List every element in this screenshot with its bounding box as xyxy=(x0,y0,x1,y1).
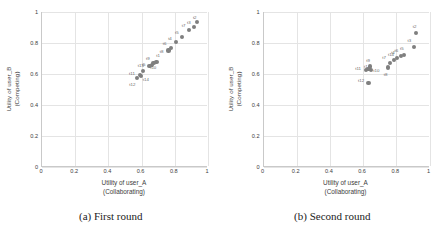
y-axis-label-line2: (Competing) xyxy=(13,66,21,111)
gridline-vertical xyxy=(363,12,364,166)
x-tick-label: 0.2 xyxy=(70,168,78,175)
gridline-horizontal xyxy=(264,43,429,44)
data-point-label: t6 xyxy=(163,41,167,46)
y-tick-label: 0 xyxy=(35,164,38,170)
data-point xyxy=(366,81,370,85)
data-point-label: t2 xyxy=(413,23,417,28)
gridline-horizontal xyxy=(42,74,207,75)
gridline-vertical xyxy=(297,12,298,166)
data-point-label: t7 xyxy=(182,23,186,28)
gridline-horizontal xyxy=(264,136,429,137)
figure-panel-a: Utility of user_B (Competing) 00.20.40.6… xyxy=(0,0,222,244)
gridline-vertical xyxy=(175,12,176,166)
data-point-label: t9 xyxy=(146,55,150,60)
data-point-label: t9 xyxy=(366,58,370,63)
x-tick-label: 0.6 xyxy=(137,168,145,175)
y-axis-ticks-a: 00.20.40.60.81 xyxy=(22,0,40,178)
data-point xyxy=(166,48,170,52)
x-tick-label: 0 xyxy=(39,168,42,175)
scatter-chart-b: Utility of user_B (Competing) 00.20.40.6… xyxy=(222,0,443,205)
gridline-vertical xyxy=(430,12,431,166)
gridline-vertical xyxy=(142,12,143,166)
data-point xyxy=(195,20,199,24)
y-tick-label: 0.4 xyxy=(252,102,260,108)
data-point-label: t1 xyxy=(156,53,160,58)
y-tick-label: 1 xyxy=(35,9,38,15)
figure-panel-b: Utility of user_B (Competing) 00.20.40.6… xyxy=(222,0,443,244)
data-point xyxy=(135,76,139,80)
gridline-vertical xyxy=(108,12,109,166)
x-tick-label: 0.4 xyxy=(325,168,333,175)
data-point xyxy=(388,61,392,65)
data-point-label: t3 xyxy=(408,38,412,43)
data-point xyxy=(392,58,396,62)
data-point xyxy=(412,45,416,49)
data-point-label: t8 xyxy=(384,71,388,76)
data-point-label: t4 xyxy=(168,35,172,40)
x-axis-label-a: Utility of user_A (Collaborating) xyxy=(41,178,207,196)
x-axis-ticks-b: 00.20.40.60.81 xyxy=(263,168,429,178)
y-axis-ticks-b: 00.20.40.60.81 xyxy=(244,0,262,178)
y-tick-label: 0.2 xyxy=(252,133,260,139)
data-point-label: t11 xyxy=(355,66,361,71)
x-tick-label: 0.8 xyxy=(170,168,178,175)
data-point xyxy=(174,40,178,44)
gridline-horizontal xyxy=(42,43,207,44)
x-tick-label: 1 xyxy=(205,168,208,175)
gridline-vertical xyxy=(396,12,397,166)
data-point xyxy=(180,35,184,39)
y-tick-label: 0.8 xyxy=(252,40,260,46)
y-tick-label: 0.2 xyxy=(30,133,38,139)
data-point-label: t11 xyxy=(129,70,135,75)
y-tick-label: 1 xyxy=(256,9,259,15)
x-axis-label-line2: (Collaborating) xyxy=(263,187,429,196)
data-point-label: t2 xyxy=(193,14,197,19)
data-point xyxy=(414,31,418,35)
x-tick-label: 0.2 xyxy=(292,168,300,175)
y-tick-label: 0.6 xyxy=(252,71,260,77)
data-point-label: t5 xyxy=(400,46,404,51)
x-axis-label-line2: (Collaborating) xyxy=(41,187,207,196)
y-axis-label-line2: (Competing) xyxy=(235,66,243,111)
data-point xyxy=(399,54,403,58)
data-point-label: t5 xyxy=(175,30,179,35)
y-tick-label: 0.6 xyxy=(30,71,38,77)
data-point xyxy=(187,28,191,32)
x-tick-label: 0.4 xyxy=(104,168,112,175)
x-tick-label: 0.6 xyxy=(358,168,366,175)
figure-row: Utility of user_B (Competing) 00.20.40.6… xyxy=(0,0,443,244)
scatter-chart-a: Utility of user_B (Competing) 00.20.40.6… xyxy=(0,0,222,205)
panel-caption-a: (a) First round xyxy=(0,209,222,223)
gridline-vertical xyxy=(330,12,331,166)
gridline-horizontal xyxy=(42,136,207,137)
panel-caption-b: (b) Second round xyxy=(222,209,443,223)
data-point xyxy=(147,64,151,68)
gridline-horizontal xyxy=(42,12,207,13)
x-axis-label-line1: Utility of user_A xyxy=(263,178,429,187)
x-tick-label: 0.8 xyxy=(391,168,399,175)
y-tick-label: 0.8 xyxy=(30,40,38,46)
gridline-horizontal xyxy=(42,105,207,106)
x-axis-ticks-a: 00.20.40.60.81 xyxy=(41,168,207,178)
plot-area-b: t2t3t5t6t4t14t7t8t9t10t1t11t12 xyxy=(263,12,429,167)
y-axis-label-b: Utility of user_B (Competing) xyxy=(224,0,246,178)
data-point xyxy=(364,68,368,72)
x-axis-label-b: Utility of user_A (Collaborating) xyxy=(263,178,429,196)
data-point-label: t13 xyxy=(138,63,144,68)
data-point-label: t14 xyxy=(388,51,394,56)
plot-area-a: t2t3t7t5t4t6t8t1t9t10t5t13t11t14t12 xyxy=(41,12,207,167)
data-point-label: t3 xyxy=(187,20,191,25)
gridline-horizontal xyxy=(264,105,429,106)
gridline-horizontal xyxy=(264,12,429,13)
y-tick-label: 0 xyxy=(256,164,259,170)
y-tick-label: 0.4 xyxy=(30,102,38,108)
data-point-label: t14 xyxy=(143,77,149,82)
y-axis-label-line1: Utility of user_B xyxy=(227,66,235,111)
gridline-vertical xyxy=(208,12,209,166)
gridline-horizontal xyxy=(264,74,429,75)
data-point xyxy=(386,65,390,69)
x-tick-label: 0 xyxy=(261,168,264,175)
data-point-label: t10 xyxy=(373,68,379,73)
data-point xyxy=(192,25,196,29)
data-point-label: t12 xyxy=(129,81,135,86)
